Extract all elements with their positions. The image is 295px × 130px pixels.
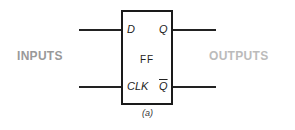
d-pin-label: D: [127, 23, 135, 35]
q-output-wire: [171, 29, 216, 31]
outputs-label: OUTPUTS: [209, 50, 268, 62]
clk-input-wire: [79, 86, 122, 88]
d-input-wire: [79, 29, 122, 31]
figure-caption: (a): [142, 108, 153, 118]
inputs-label: INPUTS: [17, 50, 63, 62]
clk-pin-label: CLK: [127, 80, 148, 92]
q-bar-output-wire: [171, 86, 216, 88]
q-pin-label: Q: [159, 23, 168, 35]
block-label: FF: [140, 54, 154, 65]
q-bar-pin-label: Q: [159, 80, 168, 92]
